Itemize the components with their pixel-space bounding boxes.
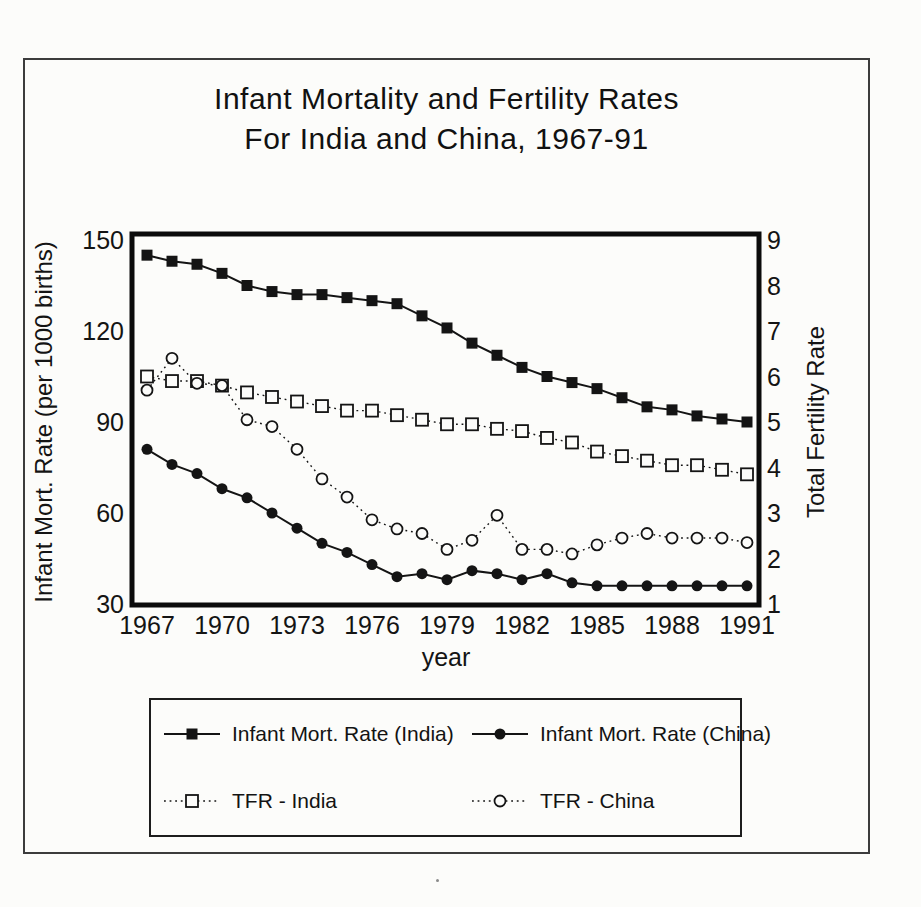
series-tfr-china	[142, 353, 753, 560]
filled-circle-marker	[367, 559, 378, 570]
x-tick-1970: 1970	[194, 611, 250, 639]
filled-circle-marker	[542, 568, 553, 579]
y-right-tick-7: 7	[767, 317, 781, 345]
x-tick-1979: 1979	[419, 611, 475, 639]
legend-label: Infant Mort. Rate (India)	[232, 722, 454, 746]
x-tick-1976: 1976	[344, 611, 400, 639]
y-right-tick-6: 6	[767, 363, 781, 391]
y-right-tick-5: 5	[767, 408, 781, 436]
filled-circle-icon	[495, 728, 506, 739]
open-square-marker	[666, 459, 678, 471]
series-line	[147, 358, 747, 554]
filled-circle-marker	[692, 580, 703, 591]
open-square-marker	[491, 423, 503, 435]
open-circle-marker	[317, 473, 328, 484]
scanned-page: Infant Mortality and Fertility Rates For…	[0, 0, 921, 907]
open-square-marker	[166, 375, 178, 387]
open-square-marker	[441, 418, 453, 430]
open-square-marker	[241, 386, 253, 398]
open-square-marker	[291, 396, 303, 408]
open-circle-marker	[692, 533, 703, 544]
open-circle-marker	[142, 385, 153, 396]
open-circle-marker	[242, 414, 253, 425]
open-circle-marker	[717, 533, 728, 544]
x-tick-1991: 1991	[719, 611, 775, 639]
open-square-marker	[466, 418, 478, 430]
filled-circle-marker	[417, 568, 428, 579]
filled-circle-marker	[617, 580, 628, 591]
open-circle-marker	[592, 539, 603, 550]
filled-square-marker	[167, 256, 178, 267]
y-right-axis-label: Total Fertility Rate	[802, 326, 829, 518]
open-square-icon	[186, 795, 198, 807]
open-square-marker	[691, 459, 703, 471]
open-circle-marker	[492, 510, 503, 521]
open-square-marker	[391, 409, 403, 421]
open-circle-marker	[642, 528, 653, 539]
filled-circle-marker	[167, 459, 178, 470]
open-square-marker	[316, 400, 328, 412]
open-square-marker	[366, 405, 378, 417]
filled-square-marker	[342, 292, 353, 303]
filled-circle-marker	[192, 468, 203, 479]
open-circle-marker	[392, 523, 403, 534]
filled-square-marker	[692, 410, 703, 421]
open-circle-marker	[292, 444, 303, 455]
open-square-dotted-line-icon	[163, 792, 221, 810]
series-line	[147, 255, 747, 422]
legend-label: Infant Mort. Rate (China)	[540, 722, 771, 746]
filled-square-marker	[742, 417, 753, 428]
filled-square-marker	[267, 286, 278, 297]
y-left-tick-120: 120	[82, 317, 124, 345]
scan-artifact-dot	[436, 879, 439, 882]
filled-circle-marker	[217, 483, 228, 494]
legend-item-tfr-india: TFR - India	[163, 789, 471, 813]
figure-frame: Infant Mortality and Fertility Rates For…	[23, 58, 870, 854]
filled-circle-marker	[642, 580, 653, 591]
open-circle-dotted-line-icon	[471, 792, 529, 810]
legend-label: TFR - China	[540, 789, 654, 813]
open-circle-marker	[742, 537, 753, 548]
open-square-marker	[541, 432, 553, 444]
open-circle-marker	[567, 548, 578, 559]
open-circle-marker	[367, 514, 378, 525]
x-tick-1967: 1967	[119, 611, 175, 639]
open-square-marker	[416, 414, 428, 426]
filled-square-marker	[517, 362, 528, 373]
open-circle-marker	[442, 544, 453, 555]
filled-square-marker	[467, 338, 478, 349]
y-right-tick-9: 9	[767, 226, 781, 254]
filled-square-solid-line-icon	[163, 725, 221, 743]
filled-circle-marker	[667, 580, 678, 591]
filled-square-marker	[442, 322, 453, 333]
filled-circle-marker	[242, 492, 253, 503]
filled-square-marker	[417, 310, 428, 321]
x-tick-1985: 1985	[569, 611, 625, 639]
filled-square-marker	[642, 401, 653, 412]
y-left-axis-label: Infant Mort. Rate (per 1000 births)	[30, 241, 57, 603]
filled-circle-marker	[717, 580, 728, 591]
open-circle-marker	[192, 378, 203, 389]
y-right-tick-8: 8	[767, 272, 781, 300]
open-circle-marker	[267, 421, 278, 432]
filled-square-marker	[667, 404, 678, 415]
legend-item-infant-mort-rate-india: Infant Mort. Rate (India)	[163, 722, 471, 746]
open-square-marker	[566, 436, 578, 448]
filled-square-marker	[542, 371, 553, 382]
filled-square-marker	[392, 298, 403, 309]
filled-circle-marker	[342, 547, 353, 558]
filled-square-marker	[367, 295, 378, 306]
x-axis-label: year	[422, 643, 471, 671]
filled-circle-marker	[592, 580, 603, 591]
filled-square-marker	[242, 280, 253, 291]
open-circle-marker	[467, 535, 478, 546]
legend-item-tfr-china: TFR - China	[471, 789, 771, 813]
legend: Infant Mort. Rate (India)Infant Mort. Ra…	[149, 698, 742, 837]
open-square-marker	[341, 405, 353, 417]
y-left-tick-150: 150	[82, 226, 124, 254]
filled-circle-marker	[467, 565, 478, 576]
filled-square-marker	[217, 268, 228, 279]
legend-label: TFR - India	[232, 789, 337, 813]
y-right-tick-2: 2	[767, 545, 781, 573]
open-circle-marker	[167, 353, 178, 364]
